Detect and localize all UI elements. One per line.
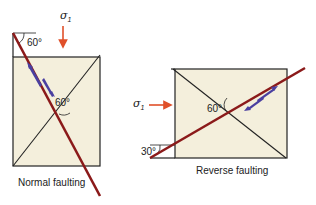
normal-caption: Normal faulting (18, 177, 85, 188)
normal-faulting-panel: σ1 60° 60° Normal faulting (13, 9, 100, 196)
faulting-diagram: σ1 60° 60° Normal faulting σ1 60° 30° Re… (0, 0, 316, 205)
reverse-angle-bottom-label: 30° (141, 146, 156, 157)
normal-angle-center-label: 60° (55, 97, 70, 108)
normal-stress-symbol: σ1 (60, 9, 72, 23)
reverse-caption: Reverse faulting (196, 165, 268, 176)
reverse-block (175, 69, 287, 158)
reverse-faulting-panel: σ1 60° 30° Reverse faulting (133, 68, 305, 176)
reverse-stress-symbol: σ1 (133, 97, 145, 111)
normal-angle-top-label: 60° (27, 37, 42, 48)
reverse-angle-center-label: 60° (207, 103, 222, 114)
normal-angle-arc-top (19, 33, 24, 43)
